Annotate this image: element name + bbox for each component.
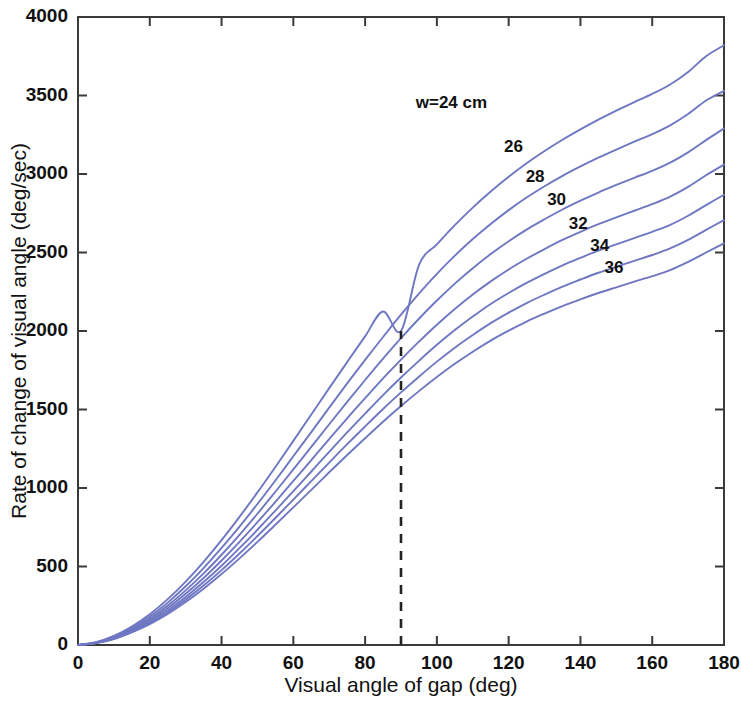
curve-label-5: 34 [590,236,609,255]
x-tick-label: 60 [283,652,304,673]
x-tick-label: 20 [139,652,160,673]
x-tick-label: 160 [636,652,668,673]
y-tick-label: 3000 [26,162,68,183]
x-tick-label: 100 [421,652,453,673]
curve-label-4: 32 [569,214,588,233]
x-axis-title: Visual angle of gap (deg) [284,673,517,696]
curve-label-6: 36 [605,258,624,277]
curve-label-1: 26 [504,137,523,156]
y-tick-label: 500 [36,555,68,576]
curve-36 [78,243,724,645]
y-tick-label: 1000 [26,476,68,497]
line-chart: 0500100015002000250030003500400002040608… [0,0,741,705]
x-tick-label: 40 [211,652,232,673]
y-tick-label: 2500 [26,241,68,262]
x-tick-label: 80 [355,652,376,673]
curve-label-2: 28 [526,167,545,186]
y-tick-label: 0 [57,633,68,654]
y-tick-label: 3500 [26,84,68,105]
y-axis-title: Rate of change of visual angle (deg/sec) [7,143,30,519]
y-tick-label: 4000 [26,5,68,26]
y-tick-label: 1500 [26,398,68,419]
x-tick-label: 140 [565,652,597,673]
y-tick-label: 2000 [26,319,68,340]
x-tick-label: 180 [708,652,740,673]
x-tick-label: 0 [73,652,84,673]
chart-figure: 0500100015002000250030003500400002040608… [0,0,741,705]
curve-labels-group: w=24 cm262830323436 [415,93,624,277]
curve-label-0: w=24 cm [415,93,487,112]
curve-label-3: 30 [547,190,566,209]
x-tick-label: 120 [493,652,525,673]
